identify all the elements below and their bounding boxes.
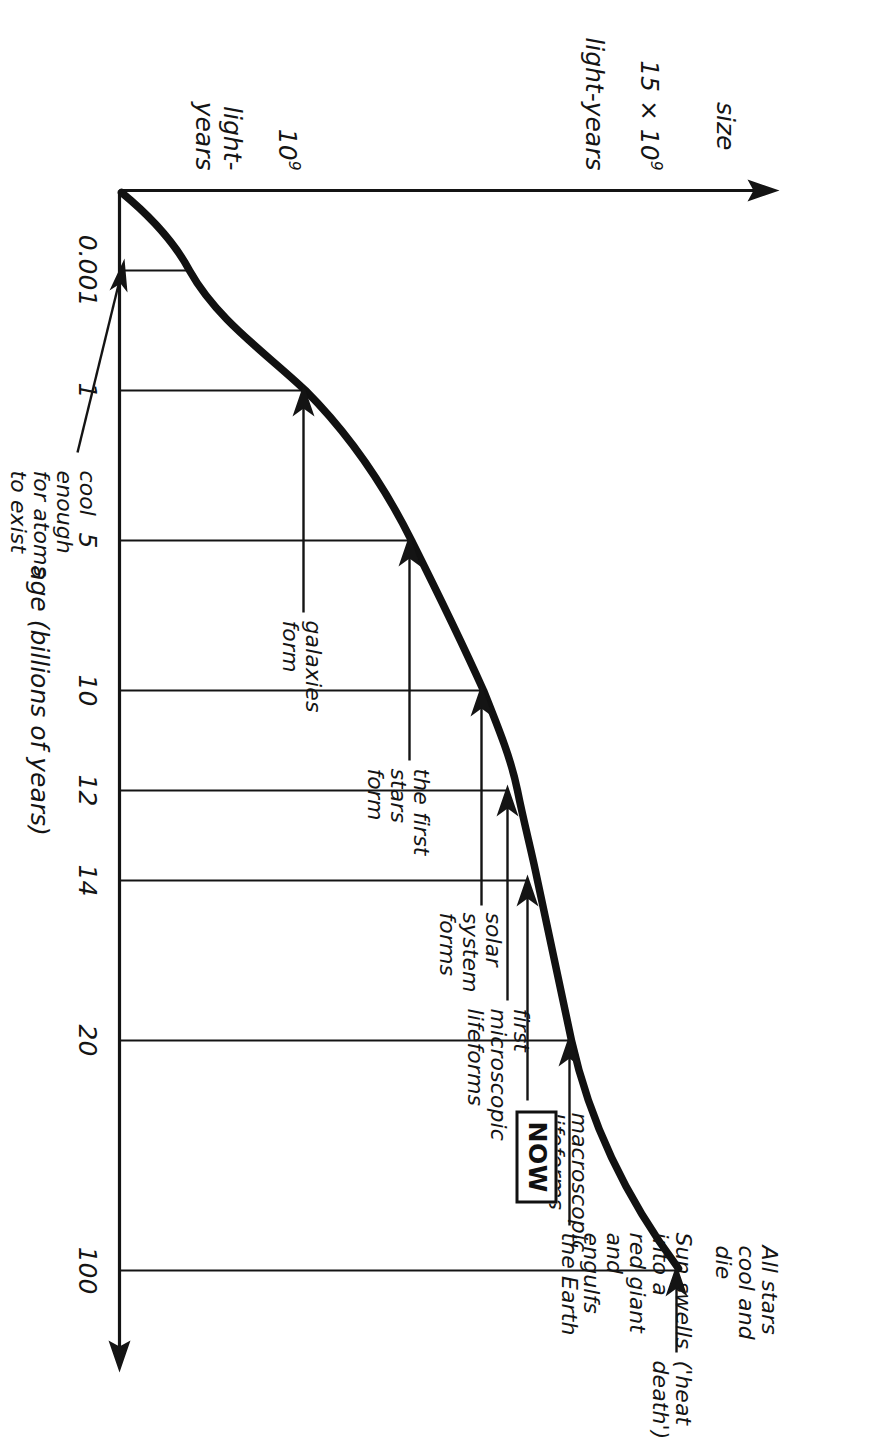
- annotation-first-stars: the first stars form: [362, 768, 431, 855]
- y-label-top-exponent: 9: [646, 160, 664, 170]
- y-label-mid-mantissa: 10: [273, 128, 302, 160]
- y-label-mid-exponent: 9: [284, 160, 302, 170]
- y-label-top-unit: light-years: [579, 37, 608, 170]
- annotation-galaxies: galaxies form: [277, 620, 323, 712]
- y-label-top-mantissa: 15 × 10: [635, 60, 664, 160]
- annotation-heat-death: ('heat death'): [647, 1360, 693, 1439]
- y-label-mid-unit: light- years: [189, 101, 246, 170]
- annotation-red-giant: Sun swells into a red giant and engulfs …: [556, 1232, 693, 1349]
- x-tick-label-6: 20: [72, 1024, 101, 1056]
- y-label-mid: 109 light- years: [161, 74, 329, 170]
- x-axis-title: age (billions of years): [24, 565, 53, 836]
- x-tick-label-4: 12: [72, 774, 101, 806]
- x-axis: [108, 190, 130, 1372]
- annotation-solar-system: solar system forms: [434, 912, 503, 992]
- x-tick-label-5: 14: [72, 864, 101, 896]
- size-curve: [121, 192, 678, 1268]
- now-label: NOW: [515, 1110, 557, 1203]
- x-tick-label-1: 1: [72, 382, 101, 398]
- x-tick-label-7: 100: [72, 1246, 101, 1294]
- x-tick-label-3: 10: [72, 674, 101, 706]
- annotation-all-stars: All stars cool and die: [710, 1245, 779, 1339]
- y-label-top: 15 × 109 light-years: [551, 5, 691, 170]
- y-axis-title: size: [710, 102, 739, 150]
- annotation-atoms: cool enough for atoms to exist: [6, 470, 98, 577]
- x-tick-label-0: 0.001: [72, 234, 101, 306]
- y-axis: [119, 179, 779, 201]
